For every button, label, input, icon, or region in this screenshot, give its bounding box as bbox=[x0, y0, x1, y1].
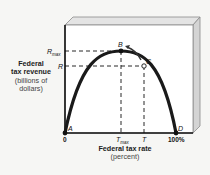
x-tick-t: T bbox=[142, 136, 147, 143]
y-axis-title: Federal tax revenue (billions of dollars… bbox=[2, 60, 60, 94]
point-a bbox=[63, 131, 68, 136]
x-axis-title: Federal tax rate (percent) bbox=[80, 145, 170, 162]
x-tick-100: 100% bbox=[168, 136, 185, 143]
point-a-label: A bbox=[67, 125, 73, 132]
x-axis-unit: (percent) bbox=[80, 153, 170, 161]
x-tick-zero: 0 bbox=[63, 136, 67, 143]
point-d-label: D bbox=[178, 125, 183, 132]
point-b bbox=[119, 49, 124, 54]
y-tick-rmax: Rmax bbox=[47, 48, 61, 57]
box-side-face bbox=[193, 17, 200, 133]
y-axis-unit-line2: dollars) bbox=[2, 85, 60, 93]
box-top-face bbox=[65, 17, 200, 25]
point-b-label: B bbox=[118, 41, 123, 48]
